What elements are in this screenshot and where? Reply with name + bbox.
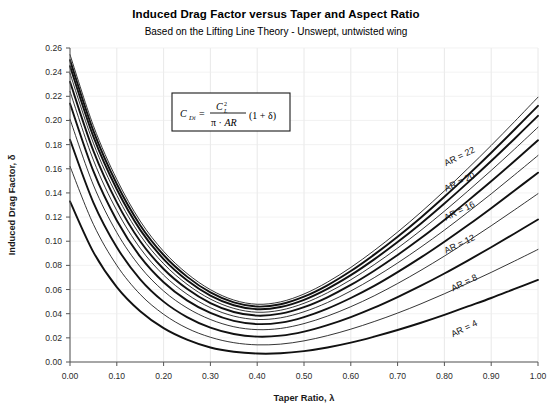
x-tick-label: 0.10 [108, 371, 125, 381]
x-axis-title: Taper Ratio, λ [274, 393, 336, 403]
x-tick-label: 0.60 [342, 371, 359, 381]
y-tick-label: 0.18 [45, 140, 62, 150]
y-tick-label: 0.10 [45, 236, 62, 246]
x-tick-label: 0.50 [296, 371, 313, 381]
y-tick-label: 0.26 [45, 43, 62, 53]
y-tick-label: 0.04 [45, 309, 62, 319]
equation-lhs-subscript: Di [188, 114, 196, 121]
y-tick-label: 0.02 [45, 333, 62, 343]
x-tick-label: 1.00 [530, 371, 547, 381]
x-tick-label: 0.20 [155, 371, 172, 381]
chart-title: Induced Drag Factor versus Taper and Asp… [132, 8, 419, 20]
x-tick-label: 0.30 [202, 371, 219, 381]
equation-annotation: C Di = C 2 L π · AR (1 + δ) [172, 93, 290, 131]
chart-subtitle: Based on the Lifting Line Theory - Unswe… [145, 26, 408, 37]
x-tick-label: 0.00 [62, 371, 79, 381]
y-tick-label: 0.24 [45, 67, 62, 77]
x-tick-label: 0.90 [483, 371, 500, 381]
y-tick-label: 0.22 [45, 91, 62, 101]
y-tick-label: 0.00 [45, 357, 62, 367]
y-tick-label: 0.12 [45, 212, 62, 222]
x-tick-label: 0.40 [249, 371, 266, 381]
x-tick-label: 0.70 [389, 371, 406, 381]
y-tick-label: 0.16 [45, 164, 62, 174]
equation-equals: = [199, 108, 205, 119]
equation-lhs: C [180, 108, 187, 119]
y-tick-label: 0.08 [45, 260, 62, 270]
y-axis-title: Induced Drag Factor, δ [7, 154, 17, 255]
x-tick-label: 0.80 [436, 371, 453, 381]
equation-factor: (1 + δ) [249, 110, 276, 122]
equation-denominator: π · AR [211, 117, 237, 128]
induced-drag-chart: Induced Drag Factor versus Taper and Asp… [0, 0, 553, 409]
y-tick-label: 0.14 [45, 188, 62, 198]
equation-numerator-exponent: 2 [224, 101, 227, 107]
equation-numerator: C [216, 101, 223, 112]
y-tick-label: 0.06 [45, 285, 62, 295]
y-tick-label: 0.20 [45, 115, 62, 125]
